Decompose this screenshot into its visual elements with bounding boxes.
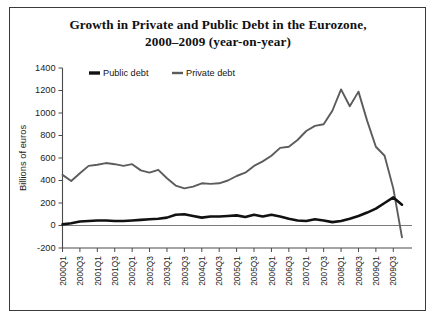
x-tick-label: 2002Q1	[127, 256, 137, 286]
x-tick-label: 2005Q3	[249, 256, 259, 286]
x-tick-label: 2001Q3	[110, 256, 120, 286]
x-tick-label: 2005Q1	[232, 256, 242, 286]
x-tick-label: 2007Q3	[319, 256, 329, 286]
data-series-group	[63, 89, 403, 237]
x-tick-label: 2006Q3	[284, 256, 294, 286]
y-axis-title-text: Billions of euros	[17, 125, 28, 191]
y-axis: -2000200400600800100012001400	[35, 63, 62, 253]
y-tick-label: 600	[40, 153, 55, 163]
series-line-public-debt	[63, 197, 403, 224]
y-tick-label: 1200	[35, 85, 55, 95]
x-tick-label: 2006Q1	[267, 256, 277, 286]
x-tick-label: 2004Q1	[197, 256, 207, 286]
x-tick-label: 2002Q3	[145, 256, 155, 286]
x-tick-label: 2009Q1	[371, 256, 381, 286]
x-tick-label: 2003Q3	[180, 256, 190, 286]
legend-label: Public debt	[103, 68, 149, 78]
y-tick-label: 800	[40, 130, 55, 140]
y-tick-label: 200	[40, 198, 55, 208]
x-tick-label: 2000Q3	[75, 256, 85, 286]
chart-legend: Public debtPrivate debt	[89, 68, 235, 78]
x-tick-label: 2008Q3	[354, 256, 364, 286]
y-axis-title: Billions of euros	[17, 125, 28, 191]
x-tick-label: 2007Q1	[301, 256, 311, 286]
y-tick-label: 400	[40, 175, 55, 185]
x-tick-label: 2008Q1	[336, 256, 346, 286]
x-tick-label: 2009Q3	[388, 256, 398, 286]
chart-plot: -2000200400600800100012001400 2000Q12000…	[0, 0, 436, 319]
y-tick-label: 1400	[35, 63, 55, 73]
x-tick-label: 2000Q1	[58, 256, 68, 286]
x-tick-label: 2004Q3	[214, 256, 224, 286]
y-tick-label: 1000	[35, 108, 55, 118]
y-tick-label: -200	[37, 243, 55, 253]
x-tick-label: 2001Q1	[93, 256, 103, 286]
y-tick-label: 0	[50, 220, 55, 230]
x-tick-label: 2003Q1	[162, 256, 172, 286]
x-axis: 2000Q12000Q32001Q12001Q32002Q12002Q32003…	[58, 248, 412, 286]
legend-label: Private debt	[186, 68, 235, 78]
chart-figure: Growth in Private and Public Debt in the…	[0, 0, 436, 319]
